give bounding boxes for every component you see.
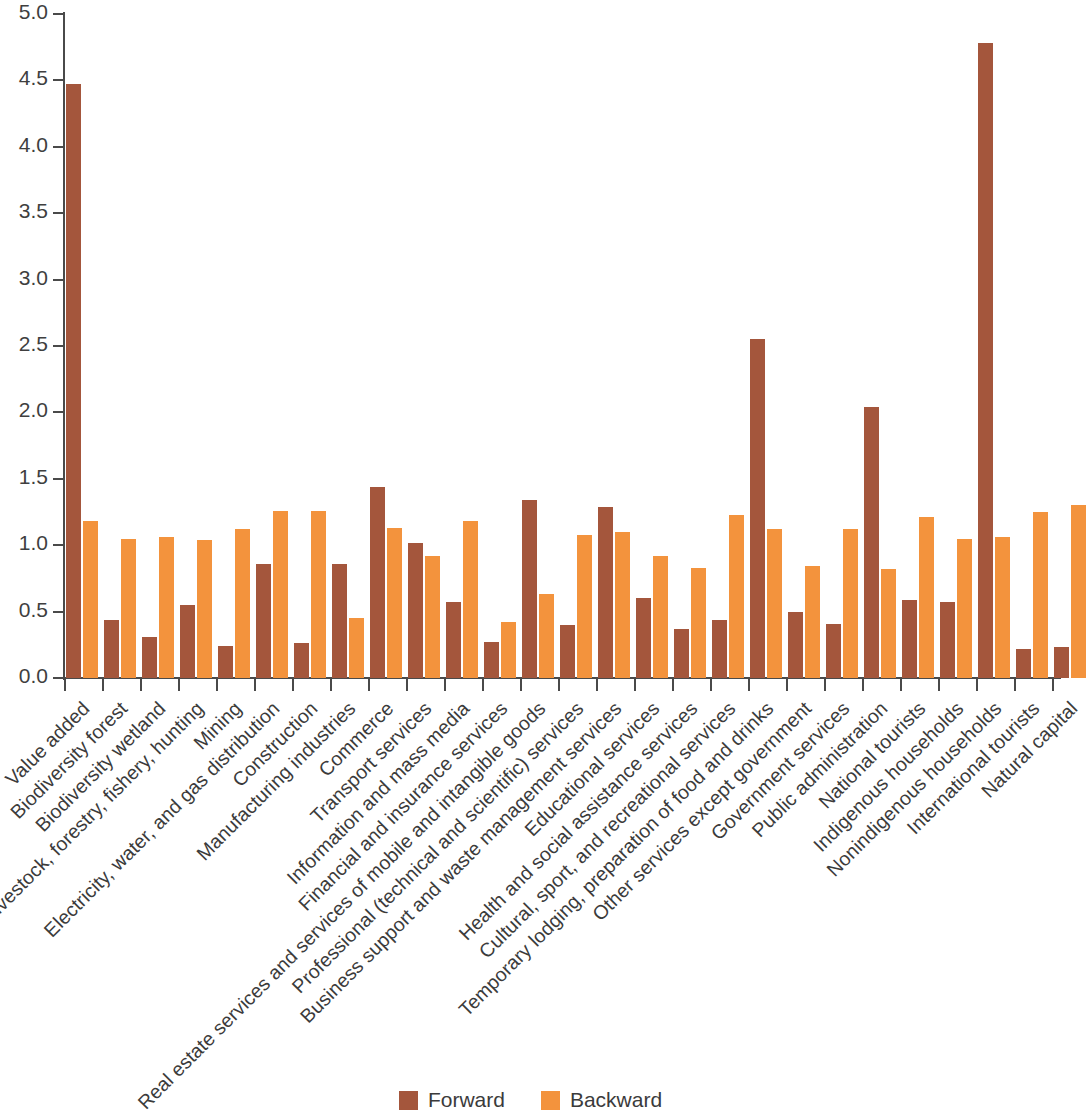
x-axis-label: Real estate services and services of mob… <box>133 697 550 1114</box>
bar-backward <box>1033 512 1048 678</box>
x-axis-tick <box>1014 679 1016 691</box>
x-axis-tick <box>292 679 294 691</box>
x-axis-tick <box>710 679 712 691</box>
bar-forward <box>560 625 575 678</box>
bar-backward <box>311 511 326 678</box>
legend-item[interactable]: Forward <box>399 1088 505 1112</box>
bar-forward <box>1016 649 1031 678</box>
x-axis-tick <box>786 679 788 691</box>
bar-forward <box>788 612 803 678</box>
bar-backward <box>273 511 288 678</box>
bar-backward <box>577 535 592 678</box>
x-axis-label: Nonindigenous households <box>822 697 1006 881</box>
y-axis-tick-label: 5.0 <box>0 0 48 24</box>
bar-backward <box>501 622 516 678</box>
x-axis-tick <box>216 679 218 691</box>
bar-forward <box>712 620 727 678</box>
x-axis-label: Cultural, sport, and recreational servic… <box>474 697 740 963</box>
y-axis-tick <box>53 13 64 15</box>
bar-backward <box>729 515 744 678</box>
bar-backward <box>387 528 402 678</box>
bar-backward <box>843 529 858 678</box>
x-axis-tick <box>64 679 66 691</box>
bar-backward <box>197 540 212 678</box>
x-axis-label: International tourists <box>902 697 1044 839</box>
bar-backward <box>919 517 934 678</box>
bar-forward <box>142 637 157 678</box>
bar-forward <box>864 407 879 678</box>
x-axis-label: Commerce <box>314 697 398 781</box>
y-axis-tick-label: 1.5 <box>0 465 48 489</box>
bar-backward <box>463 521 478 678</box>
x-axis-label: National tourists <box>814 697 930 813</box>
bar-backward <box>349 618 364 678</box>
x-axis-tick <box>368 679 370 691</box>
bar-forward <box>294 643 309 678</box>
bar-forward <box>180 605 195 678</box>
x-axis-tick <box>900 679 902 691</box>
bar-backward <box>805 566 820 678</box>
y-axis-tick <box>53 611 64 613</box>
x-axis-label: Value added <box>1 697 94 790</box>
x-axis-label: Financial and insurance services <box>294 697 513 916</box>
y-axis-tick-label: 3.5 <box>0 199 48 223</box>
bar-backward <box>425 556 440 678</box>
x-axis-label: Government services <box>706 697 854 845</box>
bar-forward <box>940 602 955 678</box>
bar-forward <box>104 620 119 678</box>
x-axis-tick <box>976 679 978 691</box>
bar-forward <box>826 624 841 678</box>
x-axis-label: Transport services <box>306 697 436 827</box>
y-axis-tick-label: 1.0 <box>0 531 48 555</box>
bar-forward <box>1054 647 1069 678</box>
x-axis-tick <box>520 679 522 691</box>
bar-forward <box>218 646 233 678</box>
legend-item[interactable]: Backward <box>541 1088 662 1112</box>
y-axis-tick-label: 3.0 <box>0 266 48 290</box>
x-axis-tick <box>862 679 864 691</box>
bar-backward <box>121 539 136 678</box>
x-axis-label: Mining <box>189 697 246 754</box>
x-axis-label: Public administration <box>747 697 892 842</box>
plot-area <box>64 14 1061 678</box>
x-axis-label: Biodiversity wetland <box>31 697 171 837</box>
x-axis-tick <box>1052 679 1054 691</box>
y-axis-tick <box>53 478 64 480</box>
bar-forward <box>408 543 423 678</box>
bar-forward <box>446 602 461 678</box>
y-axis-tick <box>53 79 64 81</box>
x-axis-label: Biodiversity forest <box>6 697 132 823</box>
x-axis-tick <box>748 679 750 691</box>
x-axis-label: Electricity, water, and gas distribution <box>39 697 284 942</box>
x-axis-label: Professional (technical and scientific) … <box>287 697 588 998</box>
y-axis-tick <box>53 146 64 148</box>
y-axis-tick-label: 0.0 <box>0 664 48 688</box>
x-axis-label: Educational services <box>520 697 664 841</box>
x-axis-label: Other services except government <box>588 697 817 926</box>
x-axis-label: Indigenous households <box>809 697 969 857</box>
bar-forward <box>674 629 689 678</box>
chart-legend: ForwardBackward <box>0 1088 1061 1112</box>
y-axis-tick-label: 2.0 <box>0 398 48 422</box>
x-axis-tick <box>596 679 598 691</box>
bar-forward <box>750 339 765 678</box>
legend-label: Forward <box>428 1088 505 1112</box>
bar-forward <box>598 507 613 678</box>
y-axis-tick-label: 0.5 <box>0 598 48 622</box>
legend-swatch-icon <box>541 1091 560 1110</box>
x-axis-tick <box>634 679 636 691</box>
x-axis-label: Information and mass media <box>282 697 474 889</box>
bar-backward <box>83 521 98 678</box>
bar-backward <box>159 537 174 678</box>
bar-forward <box>370 487 385 678</box>
x-axis-label: Manufacturing industries <box>192 697 360 865</box>
legend-swatch-icon <box>399 1091 418 1110</box>
y-axis-tick <box>53 345 64 347</box>
bar-forward <box>978 43 993 678</box>
x-axis-tick <box>824 679 826 691</box>
bar-forward <box>484 642 499 678</box>
y-axis-tick <box>53 677 64 679</box>
bar-backward <box>691 568 706 678</box>
y-axis-tick-label: 4.5 <box>0 66 48 90</box>
bar-backward <box>957 539 972 678</box>
